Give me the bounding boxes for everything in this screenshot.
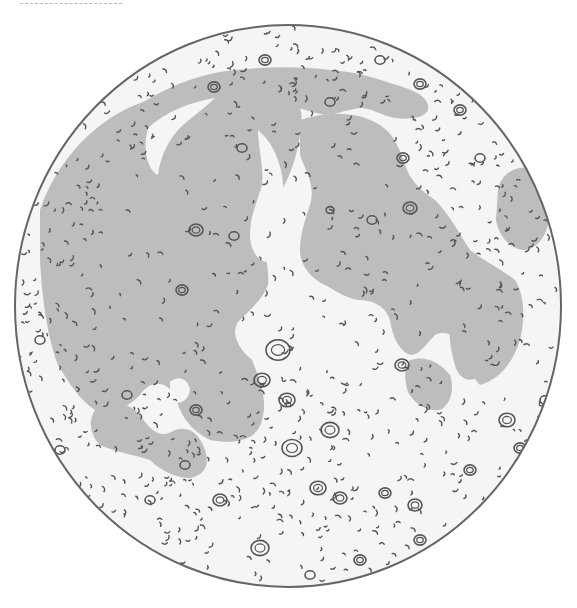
crater-speck-mark <box>242 470 243 472</box>
crater-speck-mark <box>238 106 240 107</box>
crater-speck-mark <box>152 136 155 137</box>
crater-speck-mark <box>300 436 301 439</box>
crater-speck-mark <box>486 360 488 361</box>
crater-speck-mark <box>250 447 252 448</box>
crater-speck-mark <box>289 92 290 95</box>
crater-speck-mark <box>193 483 194 485</box>
crater-speck-mark <box>229 479 232 480</box>
crater-speck-mark <box>142 158 144 159</box>
crater-speck-mark <box>413 119 416 120</box>
crater-speck-mark <box>143 394 145 395</box>
crater-speck-mark <box>421 368 422 371</box>
moon-illustration <box>0 0 577 608</box>
crater-speck-mark <box>315 75 316 77</box>
crater-speck-mark <box>47 334 48 336</box>
crater-speck-mark <box>310 395 312 396</box>
crater-speck-mark <box>284 267 285 269</box>
crater-speck-mark <box>269 493 270 496</box>
crater-speck-mark <box>409 72 410 74</box>
crater-speck-mark <box>209 232 210 235</box>
crater-speck-mark <box>327 371 328 373</box>
crater-speck-mark <box>446 451 447 453</box>
crater-speck-mark <box>97 202 98 204</box>
crater-speck-mark <box>545 381 547 382</box>
crater-speck-mark <box>207 566 208 569</box>
crater-speck-mark <box>227 273 230 274</box>
crater-speck-mark <box>426 263 429 264</box>
crater-speck-mark <box>265 170 267 171</box>
crater-speck-mark <box>394 524 395 527</box>
crater-speck-mark <box>253 201 254 203</box>
crater-speck-mark <box>442 140 444 141</box>
crater-speck-mark <box>364 511 366 512</box>
crater-ring <box>495 506 505 515</box>
crater-speck-mark <box>419 405 422 406</box>
crater-speck-mark <box>386 96 389 97</box>
crater-speck-mark <box>392 59 393 61</box>
crater-speck-mark <box>300 368 301 370</box>
crater-speck-mark <box>332 217 333 219</box>
crater-speck-mark <box>504 398 505 400</box>
crater-speck-mark <box>124 514 125 517</box>
crater-speck-mark <box>430 365 431 367</box>
crater-speck-mark <box>134 407 135 409</box>
crater-speck-mark <box>99 209 101 210</box>
crater-speck-mark <box>251 507 253 508</box>
crater-speck-mark <box>270 427 272 428</box>
crater-speck-mark <box>197 323 198 326</box>
crater-speck-mark <box>56 352 59 353</box>
crater-speck-mark <box>427 155 429 156</box>
crater-speck-mark <box>540 275 543 276</box>
mare-mare-crisium <box>496 167 550 250</box>
crater-speck-mark <box>364 70 367 71</box>
crater-speck-mark <box>365 412 367 413</box>
crater-speck-mark <box>225 135 227 136</box>
crater-speck-mark <box>142 446 143 448</box>
crater-speck-mark <box>110 306 111 308</box>
crater-speck-mark <box>125 417 127 418</box>
crater-speck-mark <box>282 377 283 379</box>
crater-speck-mark <box>106 161 109 162</box>
crater-speck-mark <box>498 476 501 477</box>
crater-ring <box>87 516 97 525</box>
crater-speck-mark <box>417 284 418 286</box>
crater-speck-mark <box>66 165 67 167</box>
